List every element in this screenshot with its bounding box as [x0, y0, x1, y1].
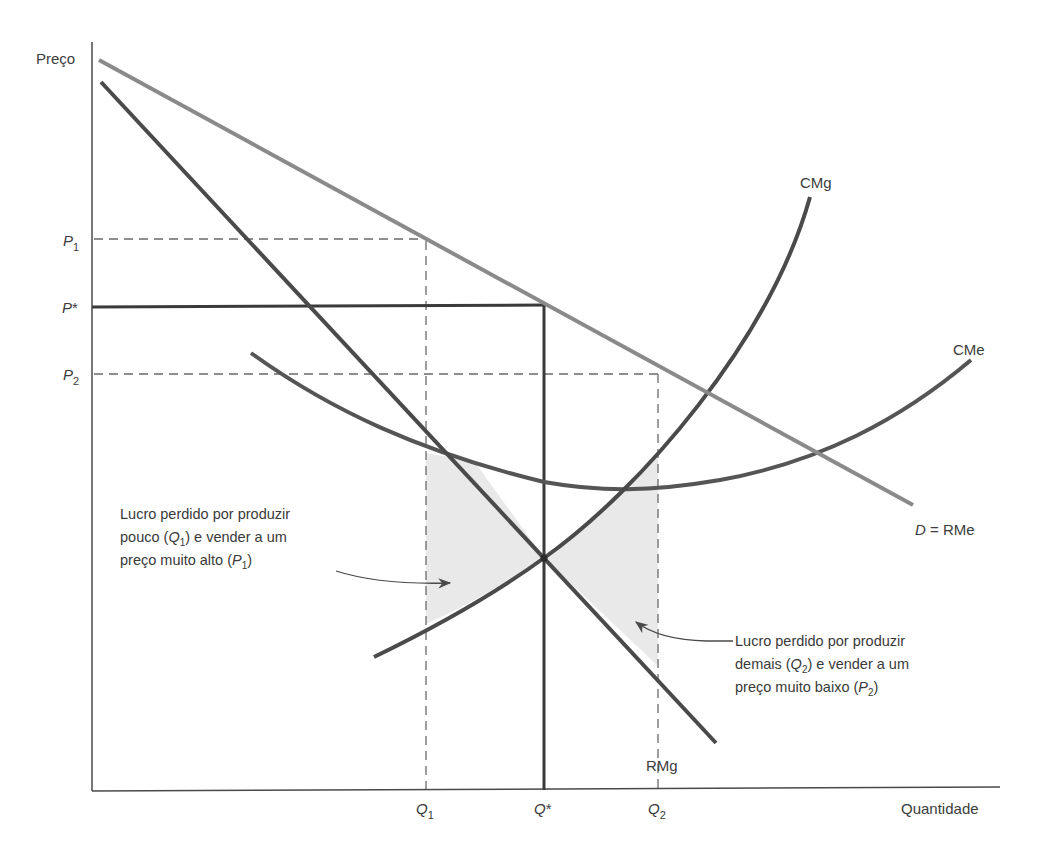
quantity-label-qstar: Q* — [534, 800, 552, 817]
demand-label: D = RMe — [915, 521, 975, 538]
svg-text:demais (Q2) e vender a um: demais (Q2) e vender a um — [735, 656, 909, 675]
y-axis-label: Preço — [36, 50, 75, 67]
svg-text:preço muito alto (P1): preço muito alto (P1) — [120, 552, 252, 571]
annotation-overproduction: Lucro perdido por produzir demais (Q2) e… — [735, 633, 909, 698]
svg-text:Lucro perdido por produzir: Lucro perdido por produzir — [735, 633, 905, 649]
svg-text:pouco (Q1) e vender a um: pouco (Q1) e vender a um — [120, 529, 287, 548]
price-label-pstar: P* — [62, 299, 78, 316]
diagram-canvas: Preço Quantidade P1 P* P2 Q1 Q* Q2 CMg C… — [0, 0, 1043, 867]
average-cost-label: CMe — [953, 341, 985, 358]
quantity-label-q1: Q1 — [416, 800, 434, 821]
annotation-underproduction: Lucro perdido por produzir pouco (Q1) e … — [120, 506, 290, 571]
marginal-cost-label: CMg — [800, 174, 832, 191]
svg-text:preço muito baixo (P2): preço muito baixo (P2) — [735, 679, 878, 698]
marginal-revenue-curve — [101, 82, 716, 743]
price-label-p2: P2 — [63, 366, 79, 387]
x-axis-label: Quantidade — [901, 800, 979, 817]
equilibrium-point — [541, 555, 548, 562]
profit-maximization-diagram: Preço Quantidade P1 P* P2 Q1 Q* Q2 CMg C… — [0, 0, 1043, 867]
demand-curve — [99, 60, 913, 505]
quantity-label-q2: Q2 — [648, 800, 666, 821]
price-label-p1: P1 — [63, 232, 79, 253]
marginal-revenue-label: RMg — [646, 757, 678, 774]
x-axis — [92, 787, 1000, 791]
svg-text:Lucro perdido por produzir: Lucro perdido por produzir — [120, 506, 290, 522]
pstar-line — [92, 305, 546, 307]
